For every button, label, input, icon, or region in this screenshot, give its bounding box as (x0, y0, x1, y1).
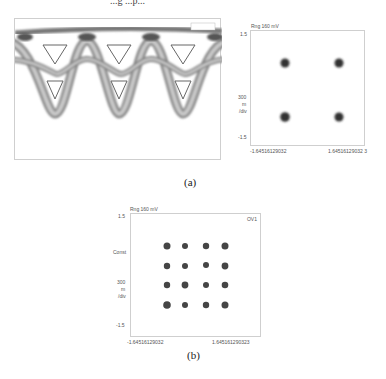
qam-x-left: -1.64516129032 (127, 340, 163, 345)
qpsk-plot-frame (250, 30, 365, 146)
qam-plot-frame: OV1 (130, 213, 261, 337)
qam-y-mid-label: Const (113, 250, 126, 255)
qpsk-x-left: -1.64516129032 (250, 149, 286, 154)
qam-channel-label: OV1 (247, 217, 257, 222)
qpsk-range-label: Rng 160 mV (251, 24, 279, 29)
qam-range-label: Rng 160 mV (130, 207, 158, 212)
qpsk-y-scale-3: /div (239, 109, 247, 114)
top-partial-text: ...g ...p... (110, 0, 145, 6)
qpsk-y-bottom: -1.5 (238, 135, 247, 140)
qpsk-y-top: 1.5 (240, 32, 247, 37)
qam-y-top: 1.5 (118, 214, 125, 219)
qpsk-scatter (251, 31, 366, 147)
qam-y-scale-3: /div (118, 294, 126, 299)
qam-y-scale-1: 300 (117, 280, 125, 285)
qpsk-y-scale-1: 300 (238, 95, 246, 100)
qam-x-right: 1.645161290323 (212, 340, 250, 345)
eye-diagram-frame (14, 18, 221, 160)
qpsk-x-right: 1.64516129032 3 (328, 149, 367, 154)
caption-b: (b) (187, 349, 200, 361)
eye-diagram-plot (15, 19, 222, 161)
qam-scatter (131, 214, 262, 338)
caption-a: (a) (184, 176, 196, 188)
qam-y-scale-2: m (121, 287, 125, 292)
qam-y-bottom: -1.5 (116, 323, 125, 328)
qpsk-y-scale-2: m (242, 102, 246, 107)
